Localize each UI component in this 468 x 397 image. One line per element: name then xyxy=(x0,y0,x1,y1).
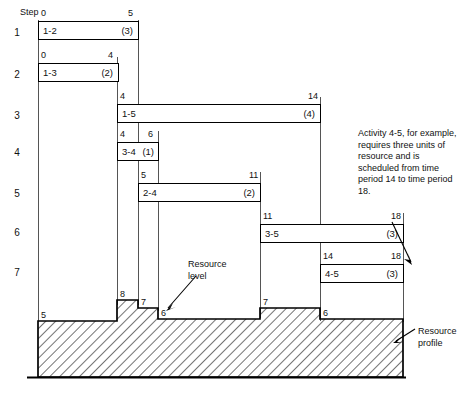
resource-profile-annotation: Resource profile xyxy=(418,326,457,349)
resource-profile-graphic xyxy=(0,0,468,397)
resource-level-annotation: Resource level xyxy=(188,259,227,282)
diagram-canvas: Step 1 2 3 4 5 6 7 0 5 1-2 (3) 0 4 1-3 (… xyxy=(0,0,468,397)
resource-profile-area xyxy=(38,300,403,377)
activity-note-leader xyxy=(392,222,411,262)
activity-note-annotation: Activity 4-5, for example, requires thre… xyxy=(358,128,462,197)
